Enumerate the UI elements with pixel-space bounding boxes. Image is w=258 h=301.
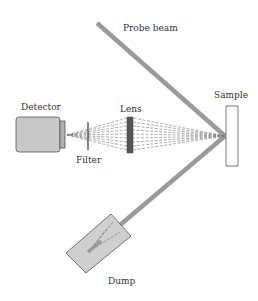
filter-label: Filter bbox=[76, 155, 102, 165]
optical-setup-diagram: Probe beam Sample Detector Lens Filter D… bbox=[0, 0, 258, 301]
lens bbox=[127, 117, 133, 153]
sample-label: Sample bbox=[214, 90, 248, 100]
dump-label: Dump bbox=[108, 276, 136, 286]
detector bbox=[16, 117, 65, 152]
detector-label: Detector bbox=[21, 102, 62, 112]
probe-beam bbox=[97, 23, 225, 136]
lens-label: Lens bbox=[120, 104, 142, 114]
detector-window bbox=[60, 121, 65, 148]
probe-beam-label: Probe beam bbox=[123, 23, 178, 33]
sample-plate bbox=[226, 106, 238, 166]
focused-rays bbox=[67, 118, 127, 150]
detector-body bbox=[16, 117, 60, 152]
